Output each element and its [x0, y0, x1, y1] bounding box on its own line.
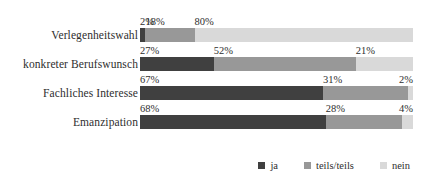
chart-legend: jateils/teilsnein: [0, 157, 432, 173]
bar-row: Fachliches Interesse67%31%2%: [0, 72, 432, 102]
legend-swatch-icon: [380, 162, 387, 169]
bar-track: [140, 115, 413, 129]
bar-segment-ja: [140, 57, 214, 71]
bar-row: Emanzipation68%28%4%: [0, 101, 432, 131]
plot-area: Verlegenheitswahl2%18%80%konkreter Beruf…: [0, 0, 432, 150]
bar-segment-ja: [140, 86, 323, 100]
value-label: 4%: [399, 103, 413, 114]
legend-item[interactable]: teils/teils: [304, 160, 354, 171]
bar-segment-teils: [145, 28, 194, 42]
bar-segment-nein: [402, 115, 413, 129]
value-label: 80%: [195, 16, 214, 27]
bar-segment-ja: [140, 115, 326, 129]
value-label: 18%: [145, 16, 164, 27]
value-label: 52%: [214, 45, 233, 56]
bar-segment-nein: [356, 57, 413, 71]
bar-segment-teils: [214, 57, 356, 71]
category-label: Emanzipation: [0, 116, 138, 129]
value-label: 68%: [140, 103, 159, 114]
value-label: 67%: [140, 74, 159, 85]
value-label: 21%: [356, 45, 375, 56]
legend-swatch-icon: [304, 162, 311, 169]
legend-label: ja: [270, 160, 278, 171]
value-label: 31%: [323, 74, 342, 85]
category-label: Verlegenheitswahl: [0, 29, 138, 42]
bar-row: Verlegenheitswahl2%18%80%: [0, 14, 432, 44]
value-label: 27%: [140, 45, 159, 56]
bar-segment-nein: [195, 28, 413, 42]
bar-track: [140, 28, 413, 42]
legend-label: nein: [392, 160, 410, 171]
bar-segment-teils: [326, 115, 402, 129]
bar-segment-teils: [323, 86, 408, 100]
category-label: Fachliches Interesse: [0, 87, 138, 100]
bar-row: konkreter Berufswunsch27%52%21%: [0, 43, 432, 73]
bar-track: [140, 57, 413, 71]
value-label: 28%: [326, 103, 345, 114]
legend-swatch-icon: [258, 162, 265, 169]
value-label: 2%: [399, 74, 413, 85]
legend-label: teils/teils: [316, 160, 354, 171]
stacked-bar-chart: Verlegenheitswahl2%18%80%konkreter Beruf…: [0, 0, 432, 188]
legend-item[interactable]: nein: [380, 160, 410, 171]
bar-track: [140, 86, 413, 100]
bar-segment-nein: [408, 86, 413, 100]
category-label: konkreter Berufswunsch: [0, 58, 138, 71]
legend-item[interactable]: ja: [258, 160, 278, 171]
